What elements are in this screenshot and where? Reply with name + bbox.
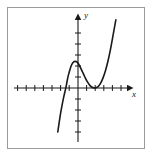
x-axis-label: x (132, 90, 136, 99)
y-axis-label: y (84, 11, 88, 20)
figure-root: y x (0, 0, 152, 157)
x-axis-group (14, 85, 128, 91)
y-axis-group (75, 19, 81, 142)
cubic-curve (58, 20, 116, 132)
graph-canvas (0, 0, 152, 157)
